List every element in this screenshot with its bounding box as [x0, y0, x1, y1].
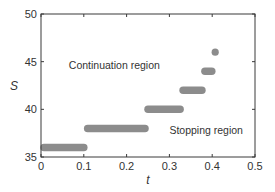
y-tick-label: 35 [25, 151, 37, 163]
region-label: Continuation region [69, 59, 160, 71]
y-tick-label: 40 [25, 103, 37, 115]
data-point [212, 49, 219, 56]
x-tick-label: 0.3 [162, 160, 177, 172]
y-axis-label: S [10, 79, 18, 93]
x-tick-label: 0.4 [205, 160, 220, 172]
y-tick-label: 45 [25, 56, 37, 68]
x-tick-label: 0 [38, 160, 44, 172]
chart: 00.10.20.30.40.535404550 t S Continuatio… [0, 0, 275, 192]
x-tick-label: 0.5 [247, 160, 262, 172]
region-label: Stopping region [169, 124, 243, 136]
x-axis-label: t [146, 173, 150, 187]
y-tick-label: 50 [25, 8, 37, 20]
x-tick-label: 0.2 [119, 160, 134, 172]
region-annotations: Continuation regionStopping region [69, 59, 243, 136]
x-tick-label: 0.1 [76, 160, 91, 172]
